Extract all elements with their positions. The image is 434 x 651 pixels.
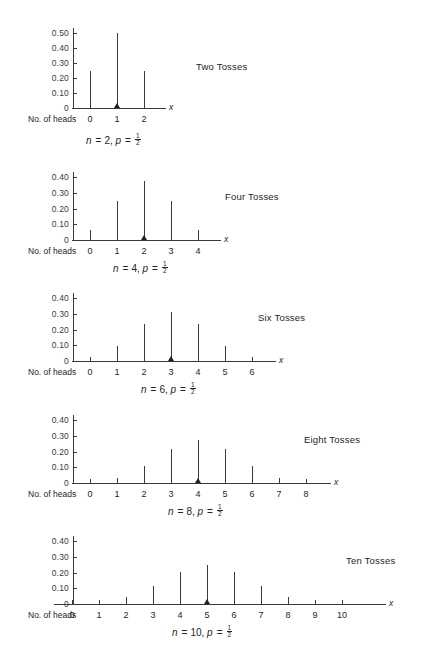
stem-bar (72, 603, 73, 604)
caption-equals-1: = (179, 627, 191, 638)
y-tick-label: 0.40 (30, 536, 69, 546)
y-tick-label: 0.30 (30, 552, 69, 562)
stem-bar (126, 597, 127, 604)
x-axis (54, 604, 386, 605)
caption-probability-fraction: 12 (227, 625, 233, 639)
fraction-numerator: 1 (227, 625, 233, 632)
x-tick-label: 1 (87, 610, 111, 620)
y-tick (73, 573, 77, 574)
y-tick (73, 557, 77, 558)
mean-marker-triangle-icon (204, 599, 210, 604)
y-tick-label: 0.10 (30, 583, 69, 593)
x-tick-label: 6 (222, 610, 246, 620)
chart-caption: n=10, p=12 (172, 625, 232, 639)
stem-bar (315, 602, 316, 604)
x-tick-label: 5 (195, 610, 219, 620)
y-axis (73, 536, 74, 604)
x-tick-label: 8 (276, 610, 300, 620)
stem-bar (99, 602, 100, 604)
stem-bar (261, 586, 262, 604)
x-tick-label: 9 (303, 610, 327, 620)
stem-bar (234, 572, 235, 604)
y-tick (73, 541, 77, 542)
y-tick-label: 0.20 (30, 568, 69, 578)
stem-bar (180, 572, 181, 604)
stem-bar (153, 586, 154, 604)
stem-bar (342, 603, 343, 604)
binomial-distribution-figure: 00.100.200.300.400.50xNo. of headsTwo To… (0, 0, 434, 651)
caption-n-value: 10 (190, 627, 201, 638)
caption-equals-2: = (214, 627, 226, 638)
chart-panel-5: 00.100.200.300.40xNo. of headsTen Tosses… (0, 0, 434, 651)
x-axis-symbol: x (389, 598, 393, 608)
x-tick-label: 7 (249, 610, 273, 620)
x-tick-label: 3 (141, 610, 165, 620)
stem-bar (288, 597, 289, 604)
y-tick (73, 588, 77, 589)
x-tick-label: 0 (60, 610, 84, 620)
x-tick-label: 10 (330, 610, 354, 620)
fraction-denominator: 2 (227, 632, 233, 639)
x-tick-label: 2 (114, 610, 138, 620)
x-tick-label: 4 (168, 610, 192, 620)
chart-title: Ten Tosses (346, 555, 395, 566)
